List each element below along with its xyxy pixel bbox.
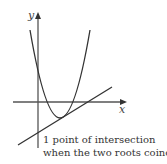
- tangent-parabola-diagram: y x 1 point of intersection when the two…: [0, 0, 167, 164]
- caption-line-2: when the two roots coincide: [43, 147, 167, 158]
- x-axis-label: x: [119, 103, 126, 116]
- caption-line-1: 1 point of intersection: [43, 134, 156, 145]
- parabola-curve: [30, 30, 90, 118]
- x-axis: [13, 99, 127, 105]
- y-axis-arrow-icon: [35, 12, 41, 19]
- y-axis-label: y: [27, 9, 35, 22]
